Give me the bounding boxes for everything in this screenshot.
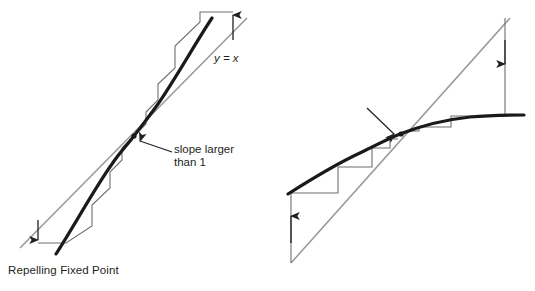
cobweb-diagram-figure: y = x slope larger than 1 Repelling Fixe… bbox=[0, 0, 535, 291]
map-curve-attracting bbox=[288, 115, 524, 194]
caption-repelling-fixed-point: Repelling Fixed Point bbox=[8, 264, 119, 276]
annotation-leader-attracting bbox=[367, 108, 394, 134]
panel-attracting-fixed-point: y = x slope less than 1 Attracting Fixed… bbox=[267, 0, 535, 291]
annotation-leader-repelling bbox=[140, 141, 172, 152]
identity-line-label-repelling: y = x bbox=[214, 52, 239, 64]
annotation-repelling: slope larger than 1 bbox=[174, 143, 234, 169]
annotation-repelling-line1: slope larger bbox=[174, 143, 234, 156]
panel-repelling-fixed-point: y = x slope larger than 1 Repelling Fixe… bbox=[0, 0, 268, 291]
fixed-point-marker-attracting bbox=[398, 131, 403, 136]
identity-line-attracting bbox=[291, 18, 510, 263]
identity-line-repelling bbox=[20, 18, 247, 248]
attracting-diagram-svg bbox=[267, 0, 535, 291]
fixed-point-marker-repelling bbox=[131, 133, 136, 138]
annotation-repelling-line2: than 1 bbox=[174, 156, 234, 169]
